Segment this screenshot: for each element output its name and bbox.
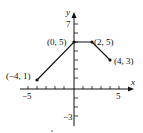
- x-tick-label-neg5: −5: [22, 91, 32, 101]
- data-point: [72, 40, 75, 43]
- point-label: (0, 5): [47, 37, 67, 47]
- x-axis-label: x: [130, 77, 135, 87]
- data-point: [35, 78, 38, 81]
- data-point: [108, 58, 111, 61]
- decorative-dot: [51, 130, 52, 131]
- y-tick-label-neg3: −3: [63, 112, 73, 122]
- y-axis-label: y: [65, 7, 70, 17]
- y-axis-arrow-icon: [72, 12, 77, 18]
- point-label: (−4, 1): [6, 71, 31, 81]
- point-label: (4, 3): [114, 56, 134, 66]
- point-label: (2, 5): [94, 37, 114, 47]
- x-tick-label-5: 5: [116, 91, 121, 101]
- x-axis-arrow-icon: [128, 87, 134, 92]
- y-tick-label-7: 7: [66, 19, 71, 29]
- y-ticks: [74, 24, 78, 116]
- function-graph: x y −5 5 7 −3 (−4, 1) (0, 5) (2, 5) (4, …: [0, 0, 143, 133]
